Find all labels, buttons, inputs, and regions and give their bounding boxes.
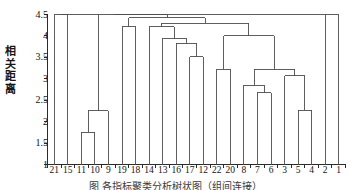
x-tick-10: 10 — [90, 165, 100, 175]
merge-m12 — [224, 36, 275, 69]
x-tick-8: 8 — [242, 165, 247, 175]
dendrogram-links — [54, 15, 338, 165]
x-tick-16: 16 — [171, 165, 181, 175]
merge-m14 — [122, 27, 136, 165]
figure-caption: 图 各指标聚类分析树状图（组间连接） — [0, 181, 351, 190]
merge-m17 — [54, 15, 68, 165]
x-tick-19: 19 — [117, 165, 127, 175]
merge-m9 — [190, 57, 204, 165]
merge-m16 — [129, 18, 206, 27]
x-tick-2: 2 — [323, 165, 328, 175]
y-tick-3.5: 3.5 — [18, 52, 48, 62]
x-tick-7: 7 — [255, 165, 260, 175]
x-tick-1: 1 — [336, 165, 341, 175]
dendrogram-plot — [0, 0, 351, 190]
y-tick-2: 2 — [18, 117, 48, 127]
x-tick-11: 11 — [77, 165, 86, 175]
x-tick-18: 18 — [131, 165, 141, 175]
x-tick-22: 22 — [212, 165, 222, 175]
merge-m13 — [149, 27, 174, 165]
x-tick-14: 14 — [144, 165, 154, 175]
y-tick-4.5: 4.5 — [18, 10, 48, 20]
dendrogram-figure: 相 关 距 离 11.522.533.544.5 211511109191814… — [0, 0, 351, 190]
x-tick-20: 20 — [226, 165, 236, 175]
x-tick-21: 21 — [50, 165, 60, 175]
x-tick-4: 4 — [309, 165, 314, 175]
merge-m10 — [176, 43, 196, 164]
y-tick-4: 4 — [18, 31, 48, 41]
x-tick-9: 9 — [106, 165, 111, 175]
merge-m2 — [88, 111, 108, 165]
merge-m5 — [244, 85, 264, 164]
x-tick-3: 3 — [282, 165, 287, 175]
y-tick-1.5: 1.5 — [18, 138, 48, 148]
x-tick-13: 13 — [158, 165, 168, 175]
y-tick-2.5: 2.5 — [18, 95, 48, 105]
x-tick-5: 5 — [296, 165, 301, 175]
merge-m6 — [285, 76, 305, 165]
x-axis-tick-labels: 21151110919181413161712222087635421 — [0, 165, 351, 179]
x-tick-12: 12 — [199, 165, 209, 175]
merge-m4 — [257, 93, 271, 165]
plot-axes — [44, 15, 346, 169]
x-tick-6: 6 — [269, 165, 274, 175]
y-axis-tick-labels: 11.522.533.544.5 — [16, 0, 48, 190]
merge-m3 — [298, 110, 312, 164]
x-tick-17: 17 — [185, 165, 195, 175]
merge-m11 — [163, 38, 187, 164]
x-tick-15: 15 — [63, 165, 73, 175]
merge-m7 — [254, 69, 295, 85]
merge-m1 — [81, 132, 95, 164]
y-tick-3: 3 — [18, 74, 48, 84]
merge-m8 — [217, 69, 231, 164]
merge-m18 — [61, 15, 167, 18]
